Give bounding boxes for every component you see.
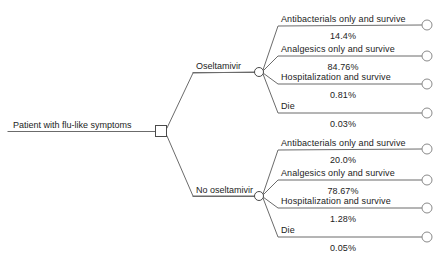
root-decision-node xyxy=(156,126,167,137)
outcome-label-osel-die: Die xyxy=(281,101,295,111)
terminal-node xyxy=(422,79,432,89)
outcome-label-noosel-antibacterials: Antibacterials only and survive xyxy=(281,138,406,148)
root-label: Patient with flu-like symptoms xyxy=(13,120,132,130)
outcome-label-noosel-analgesics: Analgesics only and survive xyxy=(281,168,395,178)
outcome-probability-osel-analgesics: 84.76% xyxy=(298,62,388,72)
outcome-label-noosel-die: Die xyxy=(281,225,295,235)
outcome-label-osel-analgesics: Analgesics only and survive xyxy=(281,44,395,54)
terminal-node xyxy=(422,51,432,61)
outcome-label-noosel-hospitalization: Hospitalization and survive xyxy=(281,196,391,206)
outcome-probability-noosel-antibacterials: 20.0% xyxy=(298,155,388,165)
terminal-node xyxy=(422,20,432,30)
outcome-probability-noosel-hospitalization: 1.28% xyxy=(298,214,388,224)
branch-label-no-oseltamivir: No oseltamivir xyxy=(196,185,253,195)
terminal-node xyxy=(422,203,432,213)
branch-label-oseltamivir: Oseltamivir xyxy=(196,61,241,71)
outcome-probability-osel-die: 0.03% xyxy=(298,119,388,129)
outcome-probability-osel-antibacterials: 14.4% xyxy=(298,31,388,41)
terminal-node xyxy=(422,175,432,185)
outcome-probability-noosel-die: 0.05% xyxy=(298,243,388,253)
chance-node-no-oseltamivir xyxy=(255,192,264,201)
outcome-probability-osel-hospitalization: 0.81% xyxy=(298,90,388,100)
chance-node-oseltamivir xyxy=(255,68,264,77)
terminal-node xyxy=(422,232,432,242)
decision-tree-diagram: Patient with flu-like symptoms Oseltamiv… xyxy=(0,0,446,266)
outcome-label-osel-hospitalization: Hospitalization and survive xyxy=(281,72,391,82)
terminal-node xyxy=(422,108,432,118)
outcome-label-osel-antibacterials: Antibacterials only and survive xyxy=(281,14,406,24)
terminal-node xyxy=(422,144,432,154)
edge-root-to-oseltamivir xyxy=(167,72,255,128)
outcome-probability-noosel-analgesics: 78.67% xyxy=(298,186,388,196)
